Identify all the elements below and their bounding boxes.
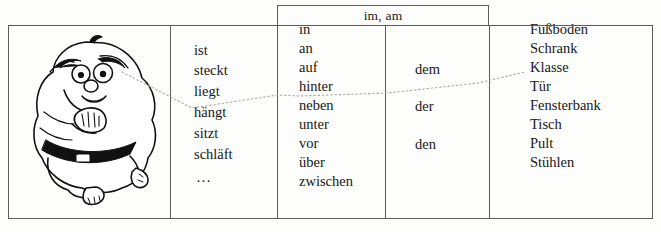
header-label: im, am [278, 8, 488, 24]
header-box-im-am: im, am [277, 5, 489, 26]
exercise-page: im, am [0, 0, 661, 232]
column-divider-3 [385, 26, 386, 218]
column-figure [8, 0, 170, 232]
cartoon-fat-man-illustration [24, 28, 170, 208]
column-divider-1 [170, 26, 171, 218]
column-divider-4 [489, 26, 490, 218]
column-divider-2 [277, 26, 278, 218]
